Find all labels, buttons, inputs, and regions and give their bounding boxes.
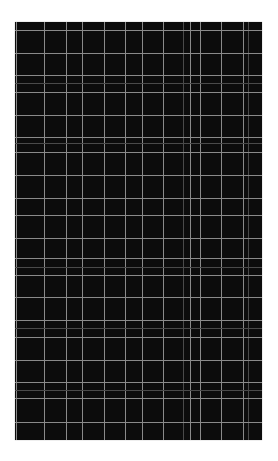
horizontal-grid-line [15, 275, 262, 276]
vertical-grid-line [248, 22, 249, 440]
vertical-grid-line [82, 22, 83, 440]
horizontal-grid-line [15, 390, 262, 391]
vertical-grid-line [142, 22, 143, 440]
horizontal-grid-line [15, 320, 262, 321]
vertical-grid-line [190, 22, 191, 440]
plaid-pattern-panel: Dark plaid grid pattern [15, 22, 262, 440]
vertical-grid-line [243, 22, 244, 440]
vertical-grid-line [44, 22, 45, 440]
horizontal-grid-line [15, 143, 262, 144]
vertical-grid-line [163, 22, 164, 440]
horizontal-grid-line [15, 337, 262, 338]
horizontal-grid-line [15, 215, 262, 216]
horizontal-grid-line [15, 83, 262, 84]
horizontal-grid-line [15, 175, 262, 176]
horizontal-grid-line [15, 198, 262, 199]
vertical-grid-line [125, 22, 126, 440]
horizontal-grid-line [15, 75, 262, 76]
horizontal-grid-line [15, 382, 262, 383]
horizontal-grid-line [15, 422, 262, 423]
horizontal-grid-line [15, 53, 262, 54]
horizontal-grid-line [15, 137, 262, 138]
horizontal-grid-line [15, 92, 262, 93]
horizontal-grid-line [15, 115, 262, 116]
horizontal-grid-line [15, 152, 262, 153]
vertical-grid-line [221, 22, 222, 440]
vertical-grid-line [183, 22, 184, 440]
horizontal-grid-line [15, 238, 262, 239]
horizontal-grid-line [15, 258, 262, 259]
horizontal-grid-line [15, 30, 262, 31]
vertical-grid-line [16, 22, 17, 440]
horizontal-grid-line [15, 297, 262, 298]
vertical-grid-line [104, 22, 105, 440]
horizontal-grid-line [15, 267, 262, 268]
horizontal-grid-line [15, 360, 262, 361]
vertical-grid-line [200, 22, 201, 440]
vertical-grid-line [66, 22, 67, 440]
horizontal-grid-line [15, 398, 262, 399]
horizontal-grid-line [15, 328, 262, 329]
